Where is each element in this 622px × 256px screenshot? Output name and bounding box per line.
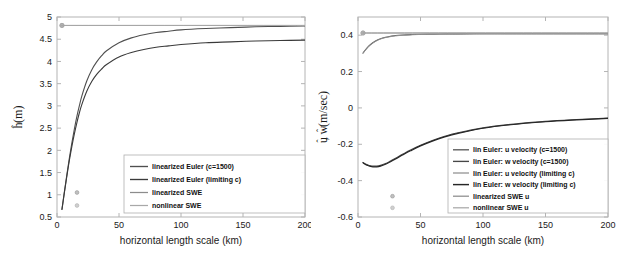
x-tick-label: 0 xyxy=(355,220,360,230)
chart-legend: lin Euler: u velocity (c=1500)lin Euler:… xyxy=(391,139,608,213)
data-series-line xyxy=(363,34,608,53)
legend-sample-marker xyxy=(75,191,79,195)
y-tick-label: 0.4 xyxy=(340,30,353,40)
y-tick-label: 0 xyxy=(348,103,353,113)
legend-entry-label: nonlinear SWE u xyxy=(473,204,529,211)
y-tick-label: 1.5 xyxy=(39,168,52,178)
legend-sample-marker xyxy=(391,194,395,198)
chart-legend: linearized Euler (c=1500)linearized Eule… xyxy=(75,155,305,213)
y-tick-label: 2.5 xyxy=(39,123,52,133)
legend-entry-label: linearized SWE u xyxy=(473,193,529,200)
y-tick-label: -0.6 xyxy=(337,212,353,222)
legend-entry-label: nonlinear SWE xyxy=(152,202,202,209)
chart-panel-left: 0501001502000.511.522.533.544.55horizont… xyxy=(0,0,311,256)
y-axis-title: hˆ (m) xyxy=(10,106,26,129)
legend-entry-label: lin Euler: u velocity (limiting c) xyxy=(473,170,575,178)
x-tick-label: 50 xyxy=(415,220,425,230)
y-tick-label: 0.5 xyxy=(39,212,52,222)
y-axis-title: uˆ, wˆ (m/sec) xyxy=(315,91,331,143)
legend-sample-marker xyxy=(75,204,79,208)
data-series-marker xyxy=(361,31,365,35)
x-tick-label: 100 xyxy=(173,220,188,230)
legend-entry-label: linearized SWE xyxy=(152,189,203,196)
x-tick-label: 150 xyxy=(538,220,553,230)
x-tick-label: 200 xyxy=(600,220,615,230)
x-axis-title: horizontal length scale (km) xyxy=(120,235,242,246)
chart-svg-left: 0501001502000.511.522.533.544.55horizont… xyxy=(0,0,311,256)
legend-entry-label: linearized Euler (c=1500) xyxy=(152,163,234,171)
y-tick-label: -0.4 xyxy=(337,176,353,186)
x-tick-label: 100 xyxy=(475,220,490,230)
legend-sample-marker xyxy=(391,206,395,210)
y-tick-label: 4 xyxy=(47,57,52,67)
chart-svg-right: 050100150200-0.6-0.4-0.200.20.4horizonta… xyxy=(311,0,622,256)
legend-entry-label: lin Euler: u velocity (c=1500) xyxy=(473,146,567,154)
x-tick-label: 0 xyxy=(54,220,59,230)
chart-panel-right: 050100150200-0.6-0.4-0.200.20.4horizonta… xyxy=(311,0,622,256)
y-tick-label: -0.2 xyxy=(337,139,353,149)
y-tick-label: 3 xyxy=(47,101,52,111)
y-tick-label: 4.5 xyxy=(39,34,52,44)
figure-container: 0501001502000.511.522.533.544.55horizont… xyxy=(0,0,622,256)
data-series-marker xyxy=(60,23,64,27)
x-tick-label: 150 xyxy=(235,220,250,230)
legend-entry-label: lin Euler: w velocity (limiting c) xyxy=(473,181,576,189)
data-series-line xyxy=(363,34,608,53)
y-tick-label: 3.5 xyxy=(39,79,52,89)
y-tick-label: 5 xyxy=(47,12,52,22)
y-tick-label: 1 xyxy=(47,190,52,200)
legend-entry-label: lin Euler: w velocity (c=1500) xyxy=(473,158,569,166)
x-axis-title: horizontal length scale (km) xyxy=(422,235,544,246)
y-tick-label: 2 xyxy=(47,146,52,156)
legend-entry-label: linearized Euler (limiting c) xyxy=(152,176,241,184)
x-tick-label: 200 xyxy=(297,220,311,230)
x-tick-label: 50 xyxy=(114,220,124,230)
y-tick-label: 0.2 xyxy=(340,67,353,77)
